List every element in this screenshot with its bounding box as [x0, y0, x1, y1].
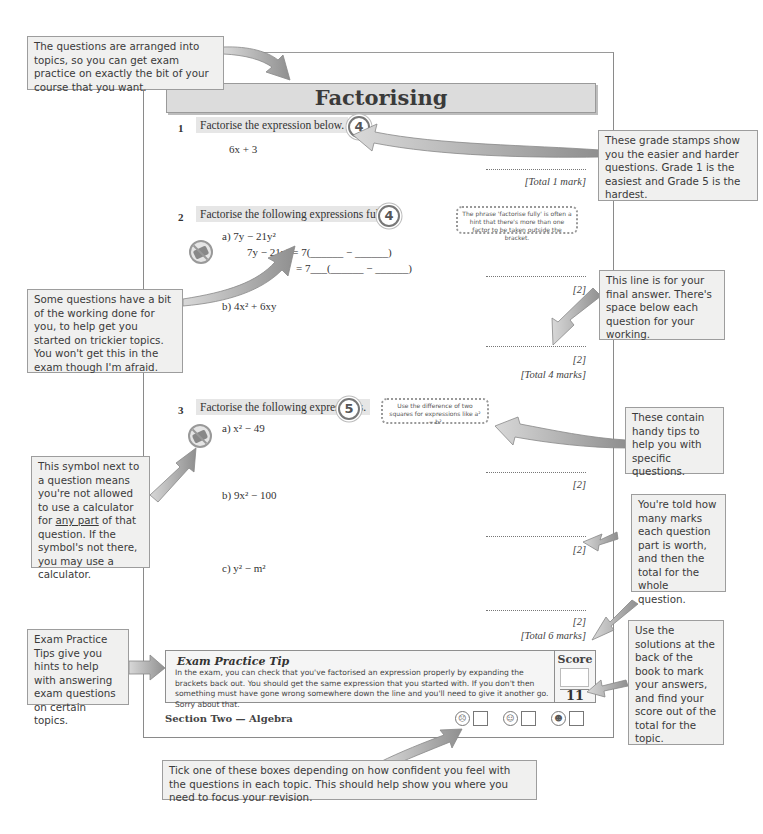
callout-tips: These contain handy tips to help you wit… — [625, 407, 724, 474]
callout-calculator: This symbol next to a question means you… — [31, 456, 150, 568]
callout-grade-stamps: These grade stamps show you the easier a… — [598, 130, 758, 201]
callout-marks: You're told how many marks each question… — [631, 494, 726, 592]
callout-solutions: Use the solutions at the back of the boo… — [628, 620, 724, 745]
callout-confidence: Tick one of these boxes depending on how… — [162, 760, 537, 800]
callout-working: Some questions have a bit of the working… — [27, 289, 183, 373]
callout-final-answer: This line is for your final answer. Ther… — [599, 270, 725, 340]
callout-exam-tips: Exam Practice Tips give you hints to hel… — [27, 629, 129, 705]
callout-topics: The questions are arranged into topics, … — [27, 36, 224, 90]
emphasis-any-part: any part — [55, 514, 98, 526]
